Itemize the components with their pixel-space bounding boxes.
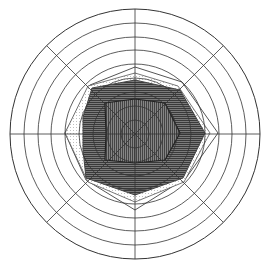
grid-spokes — [10, 9, 260, 259]
series-layer — [65, 67, 218, 210]
radar-chart — [0, 0, 269, 269]
